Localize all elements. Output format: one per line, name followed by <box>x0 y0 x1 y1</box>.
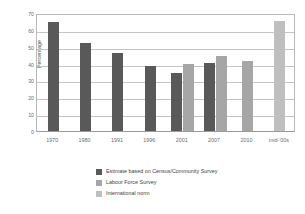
legend-item-label: Estimate based on Census/Community Surve… <box>106 168 217 175</box>
legend-item-label: International norm <box>106 190 149 197</box>
y-axis-tick-label: 0 <box>20 129 34 135</box>
bar <box>48 22 59 131</box>
x-axis-tick-label: 1991 <box>101 136 133 144</box>
legend-swatch-icon <box>96 180 102 186</box>
bar-group <box>264 15 296 131</box>
x-axis-tick-label: 2010 <box>230 136 262 144</box>
x-axis-tick-label: mid-'00s <box>263 136 295 144</box>
bar <box>183 64 194 131</box>
bar-group <box>167 15 199 131</box>
y-axis-tick-labels: 706050403020100 <box>20 14 34 132</box>
bar-series-container <box>37 15 294 131</box>
y-axis-tick-label: 40 <box>20 62 34 68</box>
bar-group <box>102 15 134 131</box>
y-axis-tick-label: 20 <box>20 95 34 101</box>
bar <box>80 43 91 132</box>
legend-swatch-icon <box>96 169 102 175</box>
chart-legend: Estimate based on Census/Community Surve… <box>96 166 286 199</box>
x-axis-tick-label: 1980 <box>68 136 100 144</box>
y-axis-tick-label: 60 <box>20 28 34 34</box>
x-axis-tick-label: 2001 <box>166 136 198 144</box>
x-axis-tick-label: 2007 <box>198 136 230 144</box>
y-axis-tick-label: 50 <box>20 45 34 51</box>
bar <box>242 61 253 131</box>
bar-group <box>231 15 263 131</box>
bar-group <box>69 15 101 131</box>
y-axis-tick-label: 10 <box>20 112 34 118</box>
bar <box>274 21 285 131</box>
y-axis-tick-label: 70 <box>20 11 34 17</box>
bar <box>216 56 227 131</box>
legend-item[interactable]: Estimate based on Census/Community Surve… <box>96 166 286 177</box>
bar <box>112 53 123 131</box>
bar <box>145 66 156 131</box>
bar-group <box>37 15 69 131</box>
plot-area <box>36 14 295 132</box>
bar-group <box>199 15 231 131</box>
y-axis-tick-label: 30 <box>20 78 34 84</box>
legend-item[interactable]: International norm <box>96 188 286 199</box>
bar <box>171 73 182 131</box>
bar-chart-figure: Percentage 706050403020100 1970198019911… <box>0 0 305 214</box>
x-axis-tick-label: 1970 <box>36 136 68 144</box>
bar-group <box>134 15 166 131</box>
bar <box>204 63 215 131</box>
x-axis-tick-label: 1996 <box>133 136 165 144</box>
legend-item-label: Labour Force Survey <box>106 179 156 186</box>
x-axis-tick-labels: 1970198019911996200120072010mid-'00s <box>36 136 295 148</box>
legend-item[interactable]: Labour Force Survey <box>96 177 286 188</box>
legend-swatch-icon <box>96 191 102 197</box>
